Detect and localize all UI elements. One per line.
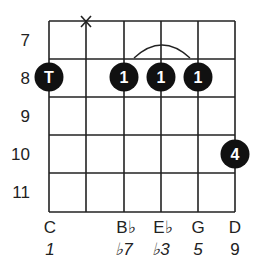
interval-string3: ♭7: [115, 240, 133, 259]
interval-string6: 9: [230, 240, 239, 259]
finger-dot-string3: 1: [110, 63, 139, 92]
svg-text:1: 1: [120, 69, 129, 86]
fret-label-9: 9: [21, 107, 30, 126]
note-string6: D: [229, 218, 241, 237]
finger-dot-string5: 1: [184, 63, 213, 92]
interval-string4: ♭3: [152, 240, 170, 259]
note-string3: B♭: [116, 218, 135, 237]
string-lines: [49, 21, 235, 212]
svg-text:1: 1: [157, 69, 166, 86]
barre-arc-icon: [134, 45, 190, 58]
fret-label-7: 7: [21, 31, 30, 50]
note-string5: G: [191, 218, 204, 237]
svg-text:4: 4: [231, 146, 240, 163]
chord-diagram: 7 8 9 10 11 T 1 1 1 4 C B♭ E♭ G D 1 ♭7 ♭…: [0, 0, 267, 275]
interval-string5: 5: [193, 240, 203, 259]
fret-lines: [49, 21, 235, 212]
finger-dot-string6: 4: [221, 140, 250, 169]
note-string4: E♭: [153, 218, 172, 237]
fret-label-11: 11: [12, 183, 30, 202]
interval-string1: 1: [45, 240, 54, 259]
svg-text:T: T: [44, 69, 54, 86]
finger-dot-thumb: T: [35, 63, 64, 92]
fret-label-8: 8: [21, 69, 30, 88]
fret-label-10: 10: [11, 145, 30, 164]
note-string1: C: [44, 218, 56, 237]
finger-dot-string4: 1: [147, 63, 176, 92]
svg-text:1: 1: [194, 69, 203, 86]
